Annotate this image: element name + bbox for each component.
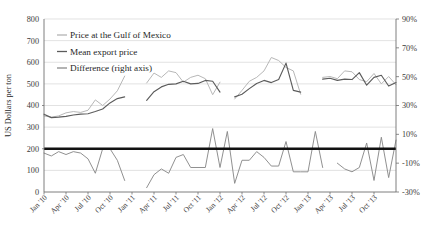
y-tick-label: 700: [27, 37, 39, 46]
x-tick-label: Jul '12: [249, 193, 269, 213]
series-line-2: [147, 129, 323, 188]
data-series-group: [44, 57, 396, 187]
y-right-tick-label: -10%: [402, 159, 420, 168]
y-axis-title: US Dollars per ton: [4, 73, 13, 137]
x-tick-label: Apr '13: [313, 193, 336, 216]
x-tick-label: Oct '10: [93, 193, 115, 215]
y-right-tick-label: -30%: [402, 188, 420, 197]
x-tick-label: Jul '11: [161, 193, 181, 213]
y-right-tick-label: 30%: [402, 101, 417, 110]
y-tick-label: 400: [27, 101, 39, 110]
series-line-0: [44, 76, 125, 117]
x-tick-label: Oct '11: [181, 193, 203, 215]
x-tick-label: Oct '12: [269, 193, 291, 215]
x-tick-label: Jul '13: [337, 193, 357, 213]
x-axis-tick-labels: Jan '10Apr '10Jul '10Oct '10Jan '11Apr '…: [28, 192, 379, 215]
x-tick-label: Apr '11: [137, 193, 159, 215]
y-tick-label: 100: [27, 166, 39, 175]
chart-legend: Price at the Gulf of MexicoMean export p…: [57, 30, 171, 73]
x-tick-label: Jan '13: [292, 193, 313, 214]
y-tick-label: 300: [27, 123, 39, 132]
y-tick-label: 800: [27, 15, 39, 24]
x-tick-label: Apr '12: [225, 193, 248, 216]
series-line-2: [337, 137, 396, 180]
series-line-2: [44, 149, 125, 181]
x-tick-label: Jan '11: [116, 193, 137, 214]
y-tick-label: 200: [27, 145, 39, 154]
x-tick-label: Jan '12: [204, 193, 225, 214]
series-line-1: [235, 63, 301, 97]
y-right-tick-label: 70%: [402, 44, 417, 53]
y-tick-label: 0: [35, 188, 39, 197]
x-tick-label: Oct '13: [357, 193, 379, 215]
line-chart: 8007006005004003002001000 90%70%50%30%10…: [0, 0, 442, 236]
y-tick-label: 600: [27, 58, 39, 67]
y-axis-right-tick-labels: 90%70%50%30%10%-10%-30%: [396, 15, 420, 197]
y-axis-tick-labels: 8007006005004003002001000: [27, 15, 44, 197]
x-tick-label: Apr '10: [49, 193, 72, 216]
legend-label-0: Price at the Gulf of Mexico: [70, 30, 171, 40]
y-axis-title-text: US Dollars per ton: [4, 73, 13, 137]
x-tick-label: Jan '10: [28, 193, 49, 214]
series-line-1: [147, 80, 220, 100]
y-right-tick-label: 10%: [402, 130, 417, 139]
series-line-0: [147, 71, 220, 95]
series-line-1: [44, 97, 125, 118]
y-right-tick-label: 50%: [402, 73, 417, 82]
y-tick-label: 500: [27, 80, 39, 89]
legend-label-1: Mean export price: [70, 47, 137, 57]
legend-label-2: Difference (right axis): [70, 63, 152, 73]
x-tick-label: Jul '10: [73, 193, 93, 213]
chart-container: 8007006005004003002001000 90%70%50%30%10…: [0, 0, 442, 236]
y-right-tick-label: 90%: [402, 15, 417, 24]
